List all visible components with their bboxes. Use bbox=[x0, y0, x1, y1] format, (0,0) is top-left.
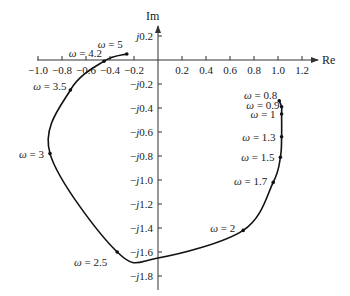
x-tick-label: −0.2 bbox=[124, 64, 144, 76]
y-tick-label: −j1.0 bbox=[130, 174, 154, 186]
y-tick-label: −j0.6 bbox=[130, 126, 154, 138]
y-tick-label: −j1.8 bbox=[130, 270, 154, 282]
omega-point bbox=[280, 135, 284, 139]
omega-point bbox=[102, 59, 106, 63]
omega-label: ω = 1 bbox=[251, 108, 276, 120]
omega-point bbox=[279, 155, 283, 159]
omega-point bbox=[241, 229, 245, 233]
y-tick-label: −j1.2 bbox=[130, 198, 153, 210]
omega-point bbox=[280, 112, 284, 116]
omega-label: ω = 2.5 bbox=[74, 256, 108, 268]
omega-point bbox=[115, 250, 119, 254]
re-axis-label: Re bbox=[322, 53, 335, 67]
y-tick-label: −j0.4 bbox=[130, 102, 154, 114]
omega-point bbox=[271, 181, 275, 185]
omega-label: ω = 5 bbox=[98, 38, 123, 50]
x-tick-label: 0.8 bbox=[247, 64, 261, 76]
nyquist-plot: ReIm −1.0−0.8−0.6−0.4−0.20.20.40.60.81.0… bbox=[0, 0, 350, 296]
omega-point bbox=[280, 105, 284, 109]
omega-label: ω = 1.3 bbox=[242, 131, 276, 143]
y-tick-label: −j1.4 bbox=[130, 222, 154, 234]
x-tick-label: 0.6 bbox=[223, 64, 237, 76]
x-tick-label: 0.4 bbox=[199, 64, 213, 76]
omega-label: ω = 1.5 bbox=[241, 151, 275, 163]
x-tick-label: −1.0 bbox=[28, 64, 48, 76]
omega-label: ω = 2 bbox=[210, 222, 235, 234]
x-tick-label: 1.0 bbox=[271, 64, 285, 76]
x-tick-label: 1.2 bbox=[295, 64, 309, 76]
omega-point bbox=[125, 52, 129, 56]
y-tick-label: −j0.8 bbox=[130, 150, 154, 162]
y-tick-label: −j1.6 bbox=[130, 246, 154, 258]
y-tick-label: −j0.2 bbox=[130, 78, 153, 90]
x-tick-label: 0.2 bbox=[175, 64, 189, 76]
omega-point bbox=[48, 152, 52, 156]
y-tick-label: j0.2 bbox=[134, 30, 153, 42]
x-tick-label: −0.8 bbox=[52, 64, 72, 76]
im-axis-label: Im bbox=[146, 9, 160, 23]
x-tick-label: −0.6 bbox=[76, 64, 96, 76]
omega-label: ω = 1.7 bbox=[234, 175, 268, 187]
omega-label: ω = 3.5 bbox=[33, 80, 67, 92]
omega-label: ω = 3 bbox=[19, 148, 44, 160]
omega-point bbox=[69, 88, 73, 92]
x-tick-label: −0.4 bbox=[100, 64, 120, 76]
